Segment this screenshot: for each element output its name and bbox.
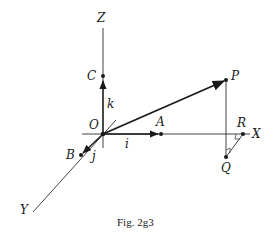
point-o bbox=[101, 132, 106, 137]
label-r: R bbox=[236, 116, 246, 130]
point-q bbox=[224, 155, 228, 159]
line-q-r bbox=[220, 134, 226, 157]
line-q-r-visible bbox=[220, 134, 226, 157]
line-qr bbox=[221, 134, 226, 157]
y-axis-label: Y bbox=[20, 203, 29, 217]
point-b bbox=[79, 153, 83, 157]
z-axis-label: Z bbox=[96, 11, 106, 25]
line-qr-actual bbox=[220, 134, 226, 157]
qr-line-main bbox=[221, 134, 226, 157]
qr-line bbox=[221, 134, 226, 157]
line-qr-main bbox=[221, 134, 226, 157]
line-segment-qr bbox=[220, 134, 226, 157]
label-b: B bbox=[65, 148, 75, 162]
label-p: P bbox=[230, 69, 240, 83]
qr-main bbox=[221, 134, 226, 157]
connector-qr bbox=[220, 134, 226, 157]
point-r bbox=[241, 132, 245, 136]
label-a: A bbox=[155, 115, 165, 129]
line-q-to-r-drawn bbox=[220, 134, 226, 157]
label-q: Q bbox=[221, 161, 231, 175]
label-j: j bbox=[89, 149, 96, 163]
line-q-r-drawn bbox=[220, 134, 226, 157]
line-qr bbox=[220, 134, 226, 157]
line-rq bbox=[220, 134, 226, 157]
q-r-connector bbox=[220, 134, 226, 157]
qr-final bbox=[220, 134, 226, 157]
line-q-to-r bbox=[221, 134, 226, 157]
label-o: O bbox=[89, 118, 99, 132]
point-p bbox=[224, 78, 228, 82]
point-c bbox=[101, 74, 105, 78]
figure-caption: Fig. 2g3 bbox=[117, 216, 154, 228]
segment-qr bbox=[220, 134, 226, 157]
qr-visible-line bbox=[226, 134, 243, 157]
point-a bbox=[159, 132, 163, 136]
x-axis-label: X bbox=[251, 127, 261, 141]
vector-diagram: Z X Y C k O A i B j P R Q Fig. 2g3 bbox=[0, 0, 273, 232]
label-k: k bbox=[107, 97, 114, 111]
label-i: i bbox=[125, 137, 129, 151]
qr-edge bbox=[220, 134, 226, 157]
label-c: C bbox=[87, 69, 96, 83]
qr bbox=[220, 134, 226, 157]
